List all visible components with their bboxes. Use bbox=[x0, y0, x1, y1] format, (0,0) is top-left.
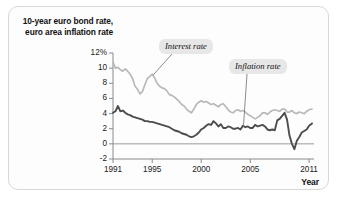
x-tick-label: 2011 bbox=[292, 165, 326, 174]
series-group bbox=[113, 62, 312, 149]
chart-plot-area bbox=[9, 7, 329, 190]
y-tick-label: 6 bbox=[75, 93, 107, 102]
y-tick-label: 2 bbox=[75, 124, 107, 133]
x-tick-label: 2000 bbox=[184, 165, 218, 174]
x-tick-label: 1991 bbox=[96, 165, 130, 174]
y-tick-label: 12% bbox=[75, 48, 107, 57]
y-tick-label: 10 bbox=[75, 63, 107, 72]
interest-rate-annotation: Interest rate bbox=[159, 39, 213, 54]
y-tick-label: 4 bbox=[75, 109, 107, 118]
inflation-rate-annotation: Inflation rate bbox=[229, 59, 287, 74]
x-tick-label: 2005 bbox=[233, 165, 267, 174]
x-tick-label: 1995 bbox=[135, 165, 169, 174]
y-tick-label: 0 bbox=[75, 139, 107, 148]
y-tick-label: 8 bbox=[75, 78, 107, 87]
chart-panel: 10-year euro bond rate, euro area inflat… bbox=[8, 6, 329, 190]
y-tick-label: -2 bbox=[75, 154, 107, 163]
